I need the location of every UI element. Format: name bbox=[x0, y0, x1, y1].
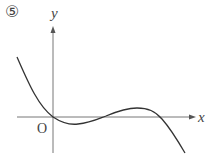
function-graph bbox=[0, 0, 209, 163]
y-axis bbox=[51, 26, 56, 153]
y-axis-arrow-icon bbox=[51, 26, 56, 33]
x-axis-arrow-icon bbox=[189, 115, 196, 120]
function-curve bbox=[17, 57, 185, 153]
